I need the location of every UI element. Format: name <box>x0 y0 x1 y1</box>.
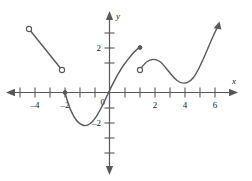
series-wave-right <box>137 22 221 84</box>
graph-figure: x y –4 –2 2 4 6 2 –2 0 <box>0 0 252 181</box>
segment-left-line <box>29 29 62 70</box>
segment-left-open-endpoint-start <box>26 26 31 31</box>
x-tick-label-2: 2 <box>153 100 158 110</box>
coordinate-plane-svg: x y –4 –2 2 4 6 2 –2 0 <box>0 0 252 181</box>
x-tick-label-6: 6 <box>213 100 218 110</box>
series-parabola-middle <box>63 46 142 126</box>
x-axis-label: x <box>231 76 236 86</box>
parabola-middle-filled-endpoint-start <box>63 91 67 95</box>
series-segment-left <box>26 26 64 72</box>
axes-group <box>6 11 238 175</box>
parabola-middle-path <box>65 48 140 126</box>
wave-right-arrow-icon <box>214 22 222 30</box>
x-axis-positive-arrow-icon <box>229 89 238 96</box>
y-axis-label: y <box>115 11 120 21</box>
x-tick-label-4: 4 <box>183 100 188 110</box>
y-tick-label-neg2: –2 <box>91 118 101 128</box>
x-tick-label-neg4: –4 <box>30 100 41 110</box>
y-axis-positive-arrow-icon <box>106 11 113 20</box>
wave-right-path <box>140 26 218 83</box>
y-tick-label-2: 2 <box>97 43 102 53</box>
x-axis-negative-arrow-icon <box>6 89 15 96</box>
segment-left-open-endpoint-end <box>59 67 64 72</box>
y-axis-negative-arrow-icon <box>106 166 113 175</box>
parabola-middle-filled-endpoint-end <box>138 46 142 50</box>
wave-right-open-endpoint-start <box>137 67 142 72</box>
